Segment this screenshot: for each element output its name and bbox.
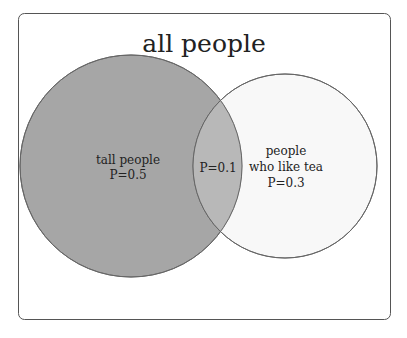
intersection-probability: P=0.1 xyxy=(199,161,236,175)
tall-people-label: tall people xyxy=(96,153,160,167)
venn-diagram: all people tall people P=0.5 P=0.1 peopl… xyxy=(0,0,407,338)
tall-people-probability: P=0.5 xyxy=(109,168,146,182)
tea-label-line1: people xyxy=(266,144,307,158)
universe-title: all people xyxy=(142,29,266,58)
tea-label-line2: who like tea xyxy=(249,160,323,174)
tea-probability: P=0.3 xyxy=(267,176,304,190)
